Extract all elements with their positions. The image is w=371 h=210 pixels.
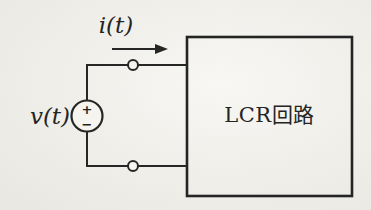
lcr-box-label: LCR回路 — [224, 103, 314, 127]
circuit-canvas: + − i(t) v(t) LCR回路 — [0, 0, 371, 210]
bottom-terminal-node-icon — [128, 161, 138, 171]
voltage-label: v(t) — [30, 103, 70, 129]
source-minus-sign: − — [82, 117, 93, 132]
circuit-figure: + − i(t) v(t) LCR回路 — [0, 0, 371, 210]
current-arrow-icon — [155, 44, 168, 54]
current-label: i(t) — [99, 12, 134, 38]
source-plus-sign: + — [82, 102, 93, 117]
top-terminal-node-icon — [128, 60, 138, 70]
